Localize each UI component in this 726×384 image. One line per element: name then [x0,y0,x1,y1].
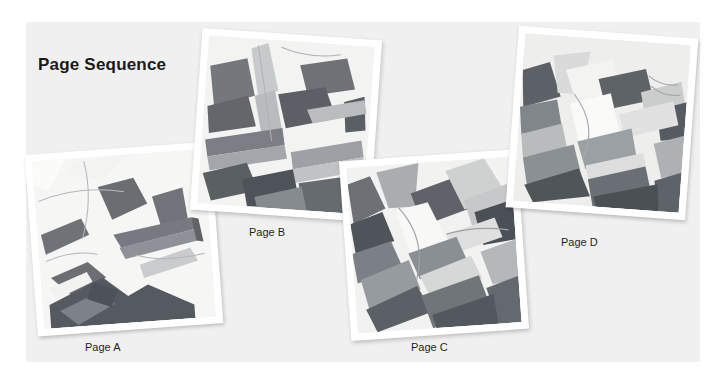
artwork-page-c [346,156,521,333]
caption-page-c: Page C [411,341,448,353]
photo-card-page-d[interactable] [506,26,699,221]
page-title: Page Sequence [38,55,166,75]
caption-page-b: Page B [249,226,285,238]
photo-inner-page-a [32,149,216,329]
slide-canvas: Page Sequence [0,0,726,384]
artwork-page-a [32,149,216,329]
photo-card-page-c[interactable] [339,149,529,341]
caption-page-d: Page D [561,236,598,248]
photo-inner-page-c [346,156,521,333]
caption-page-a: Page A [85,341,120,353]
artwork-page-d [513,33,691,213]
photo-inner-page-d [513,33,691,213]
